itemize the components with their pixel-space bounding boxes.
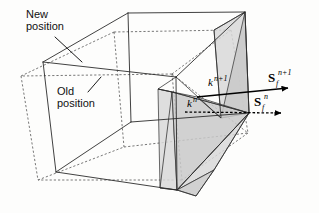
label-s-f-n-plus-1-superscript: n+1 bbox=[278, 68, 291, 77]
new-edge-bottom-front-left bbox=[56, 172, 177, 190]
old-position-leader bbox=[88, 77, 101, 92]
figure-root: New position Old position k n+1 k n S f … bbox=[0, 0, 319, 213]
old-edge-vert-left bbox=[21, 76, 38, 180]
new-edge-vert-left bbox=[43, 62, 56, 172]
swept-face-diagram: New position Old position k n+1 k n S f … bbox=[0, 0, 319, 213]
label-k-new-superscript: n+1 bbox=[214, 74, 227, 83]
old-position-label-line2: position bbox=[57, 97, 95, 109]
new-edge-top-front bbox=[43, 62, 176, 77]
old-edge-bottom-left bbox=[38, 147, 124, 180]
label-k-old-superscript: n bbox=[193, 95, 197, 104]
label-s-f-n-plus-1-subscript: f bbox=[276, 79, 280, 88]
new-position-label-line2: position bbox=[26, 20, 64, 32]
label-s-f-n-base: S bbox=[254, 94, 261, 109]
old-edge-top-right-back bbox=[114, 30, 231, 32]
new-edge-vert-back bbox=[128, 13, 131, 122]
label-s-f-n-plus-1-base: S bbox=[268, 70, 275, 85]
label-s-f-n: S f n bbox=[254, 92, 268, 112]
label-s-f-n-plus-1: S f n+1 bbox=[268, 68, 291, 88]
new-edge-bottom-left bbox=[56, 122, 131, 172]
old-position-label-line1: Old bbox=[57, 85, 74, 97]
new-edge-top-back bbox=[128, 12, 245, 13]
label-s-f-n-superscript: n bbox=[264, 92, 268, 101]
swept-face-group bbox=[158, 12, 249, 196]
new-position-label-line1: New bbox=[26, 8, 48, 20]
old-edge-top-back bbox=[21, 32, 114, 76]
label-s-f-n-subscript: f bbox=[262, 103, 266, 112]
new-position-leader bbox=[55, 37, 82, 62]
